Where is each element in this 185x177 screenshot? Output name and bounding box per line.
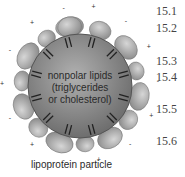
margin-number: 15.5 <box>156 102 177 117</box>
charge-symbol: - <box>125 17 128 24</box>
charge-symbol: + <box>30 141 34 148</box>
margin-number: 15.6 <box>156 134 177 149</box>
margin-number: 15.2 <box>156 21 177 36</box>
margin-number: 15.1 <box>156 4 177 19</box>
margin-number: 15.3 <box>156 54 177 69</box>
charge-symbol: + <box>30 19 34 26</box>
charge-symbol: - <box>63 4 66 11</box>
core-label-line-2: (triglycerides <box>40 82 120 94</box>
charge-symbol: - <box>9 114 12 121</box>
margin-number: 15.4 <box>156 70 177 85</box>
charge-symbol: + <box>147 43 151 50</box>
charge-symbol: + <box>0 80 4 87</box>
charge-symbol: + <box>149 112 153 119</box>
charge-symbol: - <box>9 46 12 53</box>
charge-symbol: + <box>91 3 95 10</box>
core-label-line-3: or cholesterol) <box>40 94 120 106</box>
charge-symbol: - <box>129 140 132 147</box>
diagram-caption: lipoprotein particle <box>4 159 139 170</box>
core-label-line-1: nonpolar lipids <box>40 70 120 82</box>
